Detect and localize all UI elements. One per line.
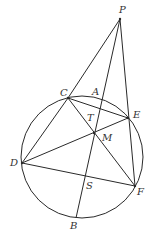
- label-C: C: [60, 87, 68, 98]
- label-M: M: [101, 132, 113, 143]
- label-A: A: [91, 86, 99, 97]
- label-D: D: [9, 157, 18, 168]
- point-F: [134, 185, 136, 187]
- label-E: E: [132, 109, 141, 120]
- label-S: S: [86, 180, 93, 191]
- point-P: [119, 18, 121, 20]
- point-M: [93, 132, 95, 134]
- segment-DF: [22, 163, 135, 186]
- label-B: B: [69, 220, 77, 231]
- segment-PB: [76, 19, 120, 218]
- point-D: [21, 162, 23, 164]
- geometry-diagram: P C A E T M D S F B: [0, 0, 155, 245]
- segment-PF: [120, 19, 135, 186]
- circle: [21, 96, 143, 218]
- label-T: T: [87, 112, 95, 123]
- label-P: P: [118, 4, 126, 15]
- label-F: F: [136, 186, 145, 197]
- point-E: [127, 117, 129, 119]
